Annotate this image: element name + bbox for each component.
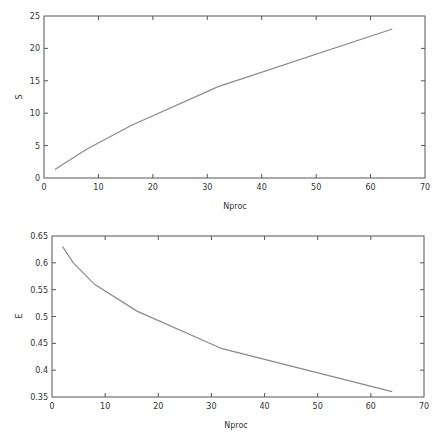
speedup-x-axis-label: Nproc [223, 202, 246, 211]
efficiency-y-tick-label: 0.4 [35, 366, 48, 375]
efficiency-x-tick-label: 20 [153, 402, 163, 411]
efficiency-x-tick-label: 70 [419, 402, 429, 411]
speedup-chart: Nproc S 0102030405060700510152025 [15, 12, 430, 211]
efficiency-x-tick-label: 0 [49, 402, 54, 411]
speedup-x-tick-label: 70 [420, 183, 430, 192]
efficiency-y-tick-label: 0.35 [30, 393, 48, 402]
speedup-plot-frame [44, 16, 425, 178]
speedup-x-tick-label: 60 [365, 183, 375, 192]
speedup-y-tick-label: 15 [30, 77, 40, 86]
efficiency-y-tick-label: 0.6 [35, 259, 48, 268]
speedup-series-line [55, 29, 392, 170]
speedup-y-tick-label: 5 [35, 142, 40, 151]
figure: Nproc S 0102030405060700510152025 Nproc … [0, 0, 441, 441]
efficiency-chart: Nproc E 0102030405060700.350.40.450.50.5… [15, 232, 429, 430]
efficiency-x-axis-label: Nproc [224, 421, 247, 430]
efficiency-y-tick-label: 0.5 [35, 313, 48, 322]
speedup-x-tick-label: 10 [93, 183, 103, 192]
speedup-x-tick-label: 20 [148, 183, 158, 192]
speedup-y-tick-label: 10 [30, 109, 40, 118]
speedup-x-tick-label: 30 [202, 183, 212, 192]
efficiency-x-tick-label: 50 [313, 402, 323, 411]
efficiency-x-tick-label: 10 [100, 402, 110, 411]
speedup-y-axis-label: S [15, 94, 24, 99]
efficiency-y-axis-label: E [15, 313, 24, 318]
efficiency-x-tick-label: 40 [259, 402, 269, 411]
efficiency-y-tick-label: 0.65 [30, 232, 48, 241]
speedup-y-tick-label: 25 [30, 12, 40, 21]
efficiency-plot-frame [52, 236, 424, 397]
efficiency-y-tick-label: 0.55 [30, 286, 48, 295]
speedup-y-tick-label: 0 [35, 174, 40, 183]
speedup-x-tick-label: 50 [311, 183, 321, 192]
speedup-y-tick-label: 20 [30, 44, 40, 53]
speedup-x-tick-label: 40 [257, 183, 267, 192]
efficiency-x-tick-label: 60 [366, 402, 376, 411]
efficiency-x-tick-label: 30 [206, 402, 216, 411]
efficiency-y-tick-label: 0.45 [30, 339, 48, 348]
speedup-x-tick-label: 0 [41, 183, 46, 192]
efficiency-series-line [63, 247, 393, 392]
